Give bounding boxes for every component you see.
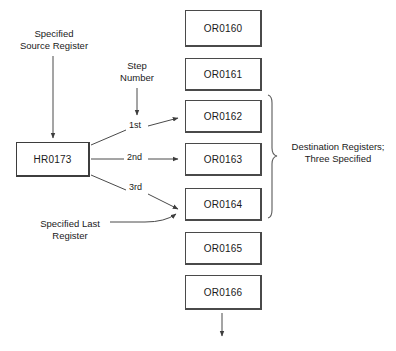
source-register-label: HR0173 bbox=[34, 154, 72, 165]
annotation-destination-registers-group: Destination Registers; Three Specified bbox=[282, 141, 394, 165]
register-box-or0164: OR0164 bbox=[185, 188, 262, 221]
register-box-or0161: OR0161 bbox=[185, 58, 262, 91]
arrow-step-3rd bbox=[148, 194, 178, 209]
register-box-or0163: OR0163 bbox=[185, 143, 262, 176]
register-box-or0166: OR0166 bbox=[185, 275, 262, 310]
register-box-label: OR0160 bbox=[204, 23, 242, 34]
annotation-specified-source-register: Specified Source Register bbox=[6, 28, 102, 52]
register-box-label: OR0166 bbox=[204, 287, 242, 298]
destination-group-brace bbox=[268, 95, 277, 218]
register-box-or0160: OR0160 bbox=[185, 10, 262, 47]
register-box-label: OR0164 bbox=[204, 199, 242, 210]
annotation-specified-last-register: Specified Last Register bbox=[20, 218, 120, 242]
step-label-1st: 1st bbox=[128, 120, 142, 130]
step-label-2nd: 2nd bbox=[126, 152, 143, 162]
arrow-step-1st bbox=[148, 118, 178, 126]
register-box-label: OR0165 bbox=[204, 243, 242, 254]
source-register-box-hr0173: HR0173 bbox=[16, 142, 90, 177]
register-box-label: OR0163 bbox=[204, 154, 242, 165]
register-transfer-diagram: OR0160 OR0161 OR0162 OR0163 OR0164 OR016… bbox=[0, 0, 396, 351]
register-box-label: OR0162 bbox=[204, 111, 242, 122]
annotation-step-number: Step Number bbox=[108, 60, 166, 84]
register-box-label: OR0161 bbox=[204, 69, 242, 80]
arrow-step-3rd-segment-a bbox=[91, 175, 126, 190]
arrow-step-1st-segment-a bbox=[91, 130, 126, 145]
register-box-or0165: OR0165 bbox=[185, 232, 262, 265]
step-label-3rd: 3rd bbox=[128, 182, 143, 192]
register-box-or0162: OR0162 bbox=[185, 100, 262, 133]
